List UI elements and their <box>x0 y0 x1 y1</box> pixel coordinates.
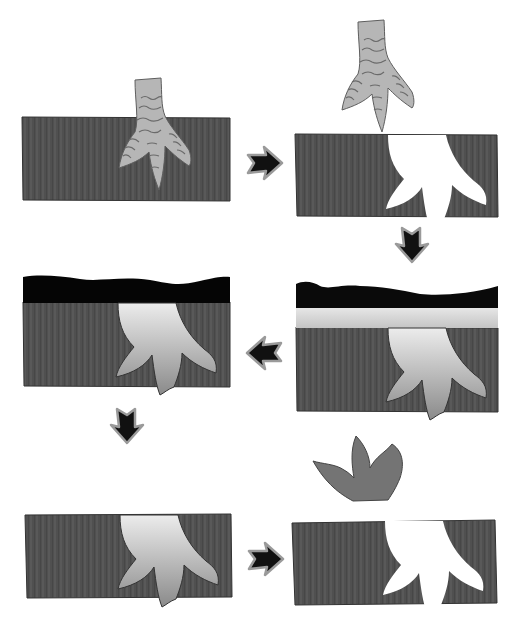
panel-4-buried-cast <box>23 276 230 395</box>
panel-2-footprint-impression <box>295 20 498 227</box>
light-sediment-layer <box>296 307 498 328</box>
arrow-left-icon <box>247 337 281 369</box>
arrow-down-icon <box>396 228 428 262</box>
arrow-right-icon <box>248 147 282 179</box>
arrow-right-icon <box>249 543 283 575</box>
footprint-formation-diagram <box>0 0 522 630</box>
natural-cast <box>313 436 402 501</box>
arrow-down-icon <box>111 409 143 443</box>
dark-overburden-layer <box>23 276 230 303</box>
panel-1-foot-in-mud <box>22 78 230 201</box>
dark-overburden-layer <box>296 282 498 308</box>
lifted-bird-foot <box>342 20 414 132</box>
panel-5-exposed-cast <box>25 514 232 607</box>
panel-6-cast-and-mold <box>292 436 497 613</box>
panel-3-sediment-infill <box>296 282 498 420</box>
